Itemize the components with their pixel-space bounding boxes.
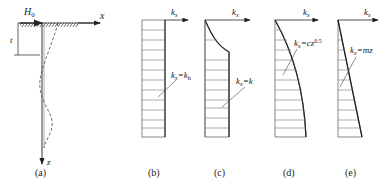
panel-c: kx kx=k (c) bbox=[205, 7, 254, 179]
caption-b: (b) bbox=[148, 167, 160, 179]
kx-axis-label: kx bbox=[232, 7, 239, 18]
panel-b: kx kx=kh (b) bbox=[142, 7, 191, 179]
caption-e: (e) bbox=[345, 167, 356, 179]
equation-label: kx=cz0.5 bbox=[294, 38, 322, 49]
panel-d: kx kx=cz0.5 (d) bbox=[275, 7, 322, 179]
x-axis-label: x bbox=[99, 10, 105, 21]
panel-a: x H0 z t (a) bbox=[10, 6, 105, 179]
panel-e: kx kx=mz (e) bbox=[338, 7, 378, 179]
equation-label: kx=k bbox=[236, 76, 254, 87]
equation-label: kx=kh bbox=[171, 70, 191, 81]
z-axis-label: z bbox=[46, 157, 51, 167]
equation-label: kx=mz bbox=[350, 45, 373, 56]
kx-axis-label: kx bbox=[303, 7, 310, 18]
caption-a: (a) bbox=[35, 167, 46, 179]
caption-c: (c) bbox=[214, 167, 225, 179]
pile-subgrade-reaction-diagram: x H0 z t (a) kx kx=kh (b) bbox=[0, 0, 382, 188]
step-distribution bbox=[205, 20, 229, 137]
hatch-lines bbox=[205, 40, 229, 128]
leader-line bbox=[340, 57, 356, 87]
leader-line bbox=[158, 80, 176, 97]
dimension-label: t bbox=[10, 35, 13, 45]
uniform-distribution bbox=[142, 20, 165, 137]
hatch-lines bbox=[142, 30, 165, 128]
caption-d: (d) bbox=[283, 167, 295, 179]
kx-axis-label: kx bbox=[171, 7, 178, 18]
deflection-curve bbox=[40, 23, 58, 148]
kx-axis-label: kx bbox=[364, 7, 371, 18]
load-label: H0 bbox=[23, 6, 35, 19]
